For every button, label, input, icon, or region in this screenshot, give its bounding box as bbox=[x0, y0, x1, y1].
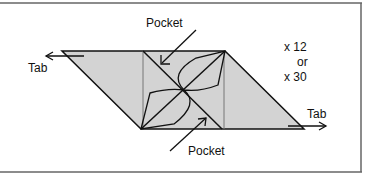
count-line-1: x 12 bbox=[284, 41, 307, 53]
pocket-top-label: Pocket bbox=[146, 17, 183, 29]
diagram-frame: Pocket Pocket Tab Tab x 12 or x 30 bbox=[0, 0, 374, 177]
tab-left-label: Tab bbox=[28, 62, 47, 74]
count-line-2: or bbox=[297, 56, 308, 68]
pocket-bottom-label: Pocket bbox=[188, 145, 225, 157]
origami-unit-diagram bbox=[0, 0, 374, 177]
count-line-3: x 30 bbox=[284, 71, 307, 83]
tab-right-label: Tab bbox=[307, 108, 326, 120]
